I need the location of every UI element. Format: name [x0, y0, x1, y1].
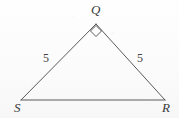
side-length-label-qs: 5	[43, 52, 49, 64]
vertex-label-q: Q	[91, 3, 100, 16]
vertex-label-s: S	[14, 101, 21, 114]
geometry-figure: Q S R 5 5	[0, 0, 179, 118]
edge-qs	[21, 24, 96, 100]
side-length-label-qr: 5	[137, 52, 143, 64]
triangle-graphic	[0, 0, 179, 118]
right-angle-icon	[91, 26, 102, 37]
vertex-label-r: R	[162, 101, 170, 114]
edge-qr	[96, 24, 165, 100]
